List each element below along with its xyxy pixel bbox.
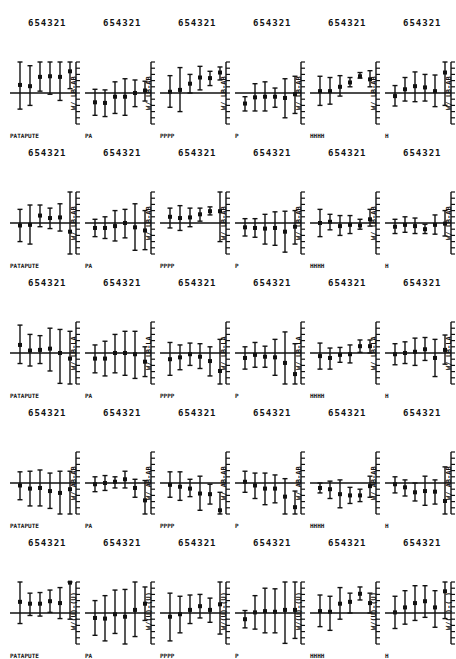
data-point xyxy=(348,493,352,497)
data-point xyxy=(413,490,417,494)
chart-panel: 654321W/ LB-ABPA xyxy=(83,140,159,270)
group-label: H xyxy=(385,262,389,269)
data-point xyxy=(113,612,117,616)
axis-side-label: W/ LB-AB xyxy=(445,206,453,240)
data-point xyxy=(318,486,322,490)
chart-panel: 654321W/ LB-LAPA xyxy=(83,270,159,400)
axis-side-label: W/(U)-(U) xyxy=(295,592,303,630)
data-point xyxy=(188,608,192,612)
axis-side-label: W/ LB-AB xyxy=(70,206,78,240)
chart-panel: 654321W/(U)-(U)P xyxy=(233,530,309,659)
data-point xyxy=(293,372,297,376)
axis-side-label: W/ LB-AB xyxy=(145,206,153,240)
data-point xyxy=(413,84,417,88)
data-point xyxy=(253,95,257,99)
data-point xyxy=(58,601,62,605)
data-point xyxy=(133,608,137,612)
data-point xyxy=(178,485,182,489)
data-point xyxy=(133,352,137,356)
data-point xyxy=(293,505,297,509)
data-point xyxy=(58,75,62,79)
data-point xyxy=(113,351,117,355)
data-point xyxy=(168,357,172,361)
axis-side-label: W/ AB-AB xyxy=(295,466,303,500)
chart-panel: 654321W/ LB-ABH xyxy=(383,140,456,270)
chart-panel: 654321W/ LB-ABPA xyxy=(83,10,159,140)
group-label: P xyxy=(235,392,239,399)
data-point xyxy=(133,91,137,95)
axis-side-label: W/ LB-AB xyxy=(445,76,453,110)
axis-side-label: W/ LB-AB xyxy=(370,206,378,240)
group-label: H xyxy=(385,132,389,139)
data-point xyxy=(338,85,342,89)
data-point xyxy=(348,80,352,84)
errorbar-grid: 654321W/ LB-ABPATAPUTE654321W/ LB-ABPA65… xyxy=(0,0,456,659)
axis-side-label: W/ LB-LA xyxy=(70,336,78,370)
data-point xyxy=(168,90,172,94)
data-point xyxy=(433,490,437,494)
group-label: P xyxy=(235,132,239,139)
data-point xyxy=(243,617,247,621)
errorbar-plot xyxy=(158,140,234,270)
data-point xyxy=(198,604,202,608)
axis-side-label: W/(U)-(U) xyxy=(145,592,153,630)
data-point xyxy=(123,615,127,619)
errorbar-plot xyxy=(83,140,159,270)
axis-side-label: W/ LB-AB xyxy=(295,206,303,240)
errorbar-plot xyxy=(83,270,159,400)
axis-side-label: W/ AB-AB xyxy=(220,466,228,500)
group-label: P xyxy=(235,262,239,269)
data-point xyxy=(433,223,437,227)
chart-panel: 654321W/ LB-LAPATAPUTE xyxy=(8,270,84,400)
data-point xyxy=(123,477,127,481)
axis-side-label: W/(U)-(U) xyxy=(70,592,78,630)
data-point xyxy=(338,602,342,606)
errorbar-plot xyxy=(158,400,234,530)
data-point xyxy=(28,84,32,88)
group-label: PATAPUTE xyxy=(10,392,39,399)
errorbar-plot xyxy=(308,10,384,140)
data-point xyxy=(178,612,182,616)
errorbar-plot xyxy=(233,140,309,270)
data-point xyxy=(113,95,117,99)
group-label: H xyxy=(385,392,389,399)
data-point xyxy=(318,609,322,613)
group-label: PPPP xyxy=(160,522,174,529)
data-point xyxy=(198,212,202,216)
data-point xyxy=(283,495,287,499)
errorbar-plot xyxy=(158,10,234,140)
axis-side-label: W/ LB-AB xyxy=(145,76,153,110)
axis-side-label: W/ LB-LA xyxy=(295,336,303,370)
chart-panel: 654321W/ LB-ABH xyxy=(383,10,456,140)
group-label: PPPP xyxy=(160,132,174,139)
data-point xyxy=(318,89,322,93)
data-point xyxy=(48,599,52,603)
chart-panel: 654321W/ LB-LAH xyxy=(383,270,456,400)
chart-panel: 654321W/(U)-(U)HHHH xyxy=(308,530,384,659)
data-point xyxy=(208,608,212,612)
group-label: H xyxy=(385,522,389,529)
chart-panel: 654321W/ LB-LAHHHH xyxy=(308,270,384,400)
data-point xyxy=(263,95,267,99)
data-point xyxy=(123,221,127,225)
data-point xyxy=(58,491,62,495)
data-point xyxy=(413,224,417,228)
data-point xyxy=(103,357,107,361)
data-point xyxy=(103,481,107,485)
data-point xyxy=(18,600,22,604)
data-point xyxy=(28,487,32,491)
data-point xyxy=(283,230,287,234)
data-point xyxy=(38,214,42,218)
data-point xyxy=(283,608,287,612)
data-point xyxy=(133,486,137,490)
data-point xyxy=(218,508,222,512)
data-point xyxy=(133,225,137,229)
data-point xyxy=(243,356,247,360)
data-point xyxy=(433,89,437,93)
chart-panel: 654321W/ LB-ABP xyxy=(233,10,309,140)
data-point xyxy=(348,223,352,227)
data-point xyxy=(243,480,247,484)
axis-side-label: W/ LB-LA xyxy=(370,336,378,370)
data-point xyxy=(243,102,247,106)
chart-panel: 654321W/ LB-ABHHHH xyxy=(308,140,384,270)
